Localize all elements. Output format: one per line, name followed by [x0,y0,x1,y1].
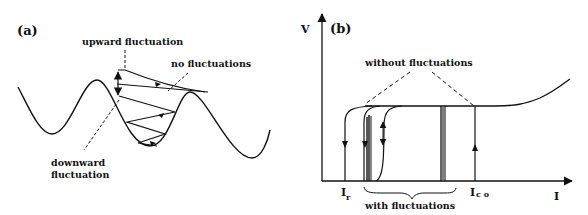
panel-b-label: (b) [330,21,351,36]
up-arrow-icon [472,144,478,151]
upward-trajectory [118,70,205,92]
brace [364,187,456,199]
figure: (a) upward fluctuation no fluctuations d… [0,0,588,215]
upward-fluctuation-label: upward fluctuation [82,36,183,47]
resistive-branch [495,79,570,106]
panel-a-label: (a) [17,23,38,38]
no-fluctuations-label: no fluctuations [171,58,251,69]
i-axis-label: I [554,190,559,203]
ir-tick-subscript: r [346,192,351,202]
ico-tick-subscript: c o [476,189,490,199]
panel-b: V (b) I without fluctuations with fluctu… [300,14,572,211]
down-arrow-icon [342,141,348,148]
panel-a: (a) upward fluctuation no fluctuations d… [17,23,270,180]
downward-label-line2: fluctuation [51,169,109,180]
without-fluctuations-label: without fluctuations [364,57,473,68]
ico-tick-label: I [470,186,475,199]
leader-without-right [432,72,474,106]
leader-without-left [365,72,410,104]
zigzag-trajectory [119,96,175,146]
retrap-curve-ir [345,106,372,181]
switching-curve [376,106,402,181]
downward-label-line1: downward [51,157,105,168]
arrowhead-icon [158,113,164,118]
v-axis-label: V [300,23,310,36]
with-fluctuations-label: with fluctuations [364,200,455,211]
leader-downward [84,100,119,150]
